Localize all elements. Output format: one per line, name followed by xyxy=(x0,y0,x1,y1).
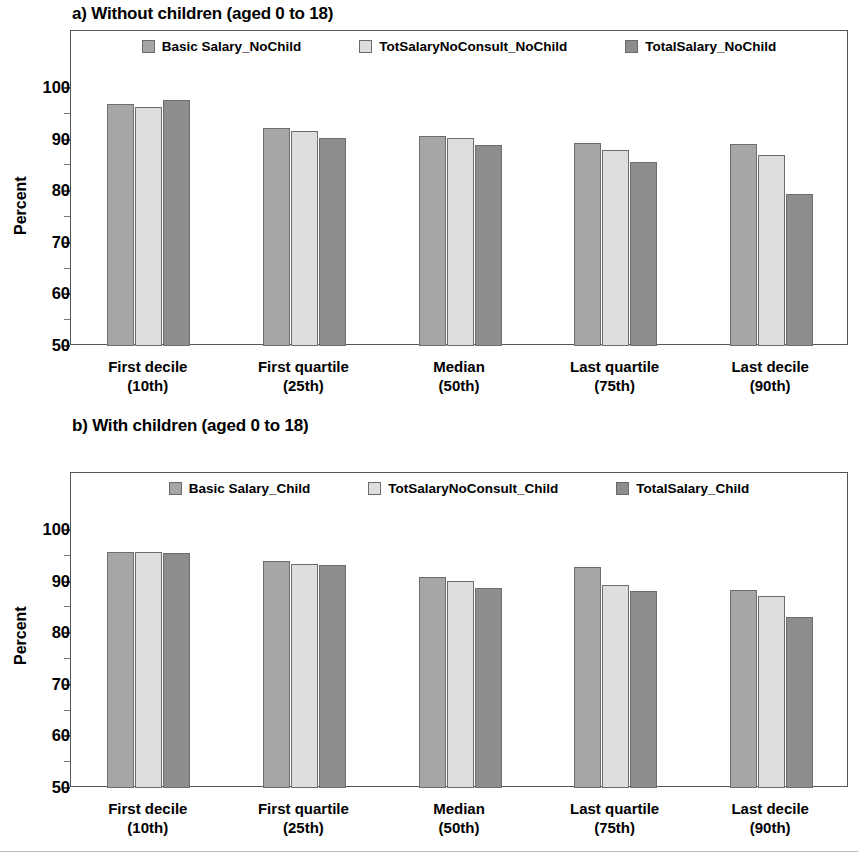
bar xyxy=(263,128,290,346)
x-axis-category-label: Last quartile(75th) xyxy=(570,799,659,837)
x-axis-category-sublabel: (50th) xyxy=(433,376,485,395)
bar xyxy=(602,585,629,788)
bar xyxy=(758,155,785,346)
x-axis-category-label: First decile(10th) xyxy=(108,357,187,395)
x-axis-category-sublabel: (10th) xyxy=(108,376,187,395)
bar xyxy=(163,553,190,788)
x-axis-category-sublabel: (50th) xyxy=(433,818,485,837)
y-tick-label: 80 xyxy=(24,181,70,200)
bar xyxy=(107,552,134,788)
x-axis-category-name: Last decile xyxy=(731,800,809,817)
bar xyxy=(419,136,446,346)
bar xyxy=(263,561,290,788)
x-axis-category-sublabel: (90th) xyxy=(731,818,809,837)
x-axis-category-label: First quartile(25th) xyxy=(258,357,349,395)
x-axis-category-name: Median xyxy=(433,358,485,375)
y-tick-label: 90 xyxy=(24,571,70,590)
bar xyxy=(107,104,134,346)
x-axis-category-sublabel: (10th) xyxy=(108,818,187,837)
bar xyxy=(630,162,657,346)
panel-b-y-axis-title: Percent xyxy=(12,606,30,665)
panel-a-title: a) Without children (aged 0 to 18) xyxy=(72,4,333,24)
bar xyxy=(630,591,657,788)
y-tick-label: 90 xyxy=(24,129,70,148)
y-tick-label: 60 xyxy=(24,284,70,303)
bar xyxy=(419,577,446,788)
bar xyxy=(574,143,601,346)
x-axis-category-name: Median xyxy=(433,800,485,817)
x-axis-category-sublabel: (25th) xyxy=(258,376,349,395)
bar xyxy=(291,564,318,788)
bar xyxy=(786,617,813,788)
bar xyxy=(475,588,502,788)
bar xyxy=(786,194,813,346)
x-axis-category-label: Last quartile(75th) xyxy=(570,357,659,395)
panel-b-y-axis-ticks: 5060708090100 xyxy=(0,472,70,787)
bar xyxy=(135,107,162,346)
x-axis-category-label: Last decile(90th) xyxy=(731,799,809,837)
x-axis-category-name: First quartile xyxy=(258,800,349,817)
bar xyxy=(319,138,346,346)
x-axis-category-sublabel: (25th) xyxy=(258,818,349,837)
bar xyxy=(447,138,474,346)
panel-b-plot-area: Basic Salary_ChildTotSalaryNoConsult_Chi… xyxy=(70,472,848,787)
bar xyxy=(319,565,346,788)
bar xyxy=(730,144,757,346)
bar xyxy=(447,581,474,788)
x-axis-category-name: First quartile xyxy=(258,358,349,375)
x-axis-category-label: Last decile(90th) xyxy=(731,357,809,395)
x-axis-category-sublabel: (75th) xyxy=(570,376,659,395)
panel-a-y-axis-ticks: 5060708090100 xyxy=(0,30,70,345)
panel-a-bars xyxy=(71,31,847,344)
x-axis-category-name: Last quartile xyxy=(570,358,659,375)
x-axis-category-name: Last quartile xyxy=(570,800,659,817)
x-axis-category-label: First quartile(25th) xyxy=(258,799,349,837)
x-axis-category-name: First decile xyxy=(108,358,187,375)
y-tick-label: 80 xyxy=(24,623,70,642)
chart-panel-with-children: b) With children (aged 0 to 18) 50607080… xyxy=(0,412,858,855)
y-tick-label: 50 xyxy=(24,778,70,797)
x-axis-category-name: Last decile xyxy=(731,358,809,375)
bar xyxy=(574,567,601,788)
footer-divider xyxy=(0,851,858,852)
chart-panel-without-children: a) Without children (aged 0 to 18) Perce… xyxy=(0,0,858,412)
panel-a-plot-area: Basic Salary_NoChildTotSalaryNoConsult_N… xyxy=(70,30,848,345)
y-tick-label: 50 xyxy=(24,336,70,355)
bar xyxy=(135,552,162,788)
x-axis-category-name: First decile xyxy=(108,800,187,817)
panel-b-bars xyxy=(71,473,847,786)
panel-b-title: b) With children (aged 0 to 18) xyxy=(72,416,308,436)
bar xyxy=(163,100,190,346)
bar xyxy=(291,131,318,346)
y-tick-label: 100 xyxy=(24,78,70,97)
bar xyxy=(730,590,757,788)
x-axis-category-label: Median(50th) xyxy=(433,799,485,837)
bar xyxy=(602,150,629,346)
x-axis-category-label: First decile(10th) xyxy=(108,799,187,837)
x-axis-category-sublabel: (90th) xyxy=(731,376,809,395)
x-axis-category-label: Median(50th) xyxy=(433,357,485,395)
x-axis-category-sublabel: (75th) xyxy=(570,818,659,837)
y-tick-label: 70 xyxy=(24,674,70,693)
bar xyxy=(758,596,785,788)
y-tick-label: 70 xyxy=(24,232,70,251)
y-tick-label: 100 xyxy=(24,520,70,539)
bar xyxy=(475,145,502,346)
y-tick-label: 60 xyxy=(24,726,70,745)
